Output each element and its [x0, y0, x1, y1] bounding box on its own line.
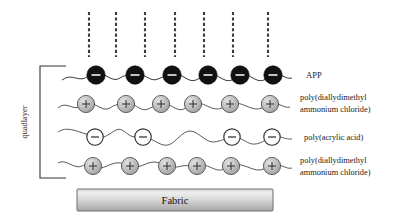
- layer-label-pdadmac-bottom-line1: poly(diallydimethyl: [300, 156, 367, 165]
- charged-bead-positive: [188, 157, 205, 174]
- layer-label-pdadmac-bottom-line2: ammonium chloride): [300, 168, 371, 177]
- fabric-label: Fabric: [162, 195, 189, 206]
- charged-bead-negative: [87, 66, 105, 84]
- charged-bead-positive: [184, 95, 201, 112]
- fabric-substrate: Fabric: [77, 189, 273, 211]
- charged-bead-negative-open: [135, 129, 151, 145]
- charged-bead-negative-open: [264, 129, 280, 145]
- charged-bead-positive: [222, 157, 239, 174]
- charged-bead-positive: [263, 157, 280, 174]
- quadlayer-label: quadlayer: [20, 105, 29, 138]
- charged-bead-positive: [84, 157, 101, 174]
- charged-bead-negative: [163, 66, 181, 84]
- layer-label-pdadmac-top-line1: poly(diallydimethyl: [300, 93, 367, 102]
- layer-label-paa: poly(acrylic acid): [304, 133, 364, 142]
- charged-bead-negative-open: [87, 129, 103, 145]
- charged-bead-positive: [152, 95, 169, 112]
- layer-by-layer-coating-diagram: quadlayer: [0, 0, 394, 222]
- charged-bead-positive: [158, 157, 175, 174]
- charged-bead-negative: [264, 66, 282, 84]
- charged-bead-positive: [221, 95, 238, 112]
- charged-bead-negative: [199, 66, 217, 84]
- charged-bead-positive: [121, 157, 138, 174]
- charged-bead-negative: [231, 66, 249, 84]
- charged-bead-negative: [126, 66, 144, 84]
- layer-label-app: APP: [306, 70, 322, 80]
- charged-bead-positive: [77, 95, 94, 112]
- charged-bead-positive: [261, 95, 278, 112]
- charged-bead-negative-open: [224, 129, 240, 145]
- charged-bead-positive: [117, 95, 134, 112]
- layer-label-pdadmac-top-line2: ammonium chloride): [300, 105, 371, 114]
